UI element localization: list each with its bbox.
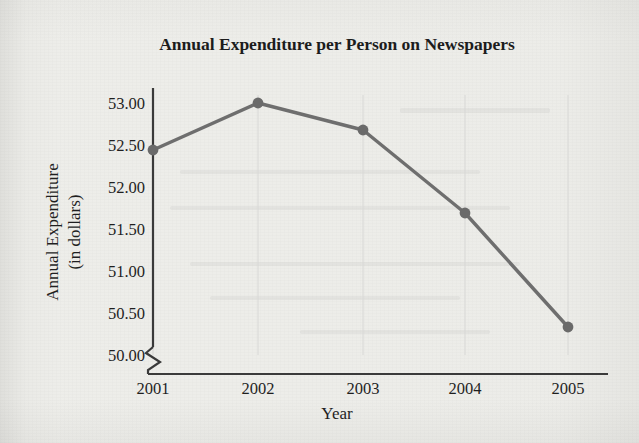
y-tick-labels: 53.00 52.50 52.00 51.50 51.00 50.50 50.0… <box>108 94 145 365</box>
y-axis-title-line1: Annual Expenditure <box>43 163 62 300</box>
x-tick-label: 2004 <box>449 379 482 398</box>
chart-title: Annual Expenditure per Person on Newspap… <box>159 34 515 54</box>
x-tick-labels: 2001 2002 2003 2004 2005 <box>137 379 585 398</box>
y-axis-title-line2: (in dollars) <box>65 194 84 269</box>
x-tick-label: 2005 <box>552 379 585 398</box>
data-point-2001 <box>148 145 159 156</box>
x-axis-title: Year <box>321 404 353 423</box>
x-tick-label: 2002 <box>242 379 275 398</box>
y-tick-label: 52.50 <box>108 136 145 155</box>
data-line-series <box>153 103 568 327</box>
y-tick-label: 50.00 <box>108 346 145 365</box>
y-tick-label: 50.50 <box>108 304 145 323</box>
y-tick-label: 51.00 <box>108 262 145 281</box>
x-tick-label: 2001 <box>137 379 170 398</box>
data-point-2004 <box>460 208 471 219</box>
x-tick-label: 2003 <box>347 379 380 398</box>
data-point-2002 <box>253 98 264 109</box>
y-tick-label: 52.00 <box>108 178 145 197</box>
data-point-2005 <box>563 322 574 333</box>
line-chart: Annual Expenditure per Person on Newspap… <box>0 0 639 443</box>
data-point-markers <box>148 98 574 333</box>
data-point-2003 <box>358 125 369 136</box>
y-tick-label: 51.50 <box>108 220 145 239</box>
chart-figure: Annual Expenditure per Person on Newspap… <box>0 0 639 443</box>
y-tick-label: 53.00 <box>108 94 145 113</box>
